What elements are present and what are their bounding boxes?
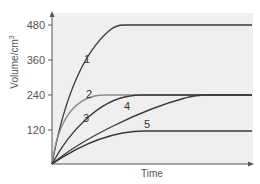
curve-label-4: 4	[124, 100, 130, 112]
y-tick-120: 120	[27, 124, 45, 136]
y-ticks	[48, 25, 52, 130]
y-axis-title: Volume/cm3	[8, 35, 20, 88]
y-tick-360: 360	[27, 54, 45, 66]
curve-label-2: 2	[86, 88, 92, 100]
y-tick-480: 480	[27, 19, 45, 31]
curve-label-5: 5	[144, 118, 150, 130]
plot-panel	[52, 13, 253, 164]
chart-svg: 120 240 360 480 Volume/cm3 Time 1 2 3 4 …	[0, 0, 260, 184]
y-tick-240: 240	[27, 89, 45, 101]
svg-text:Volume/cm3: Volume/cm3	[8, 35, 20, 88]
curve-label-3: 3	[83, 112, 89, 124]
x-axis-title: Time	[141, 168, 163, 179]
curve-label-1: 1	[84, 53, 90, 65]
